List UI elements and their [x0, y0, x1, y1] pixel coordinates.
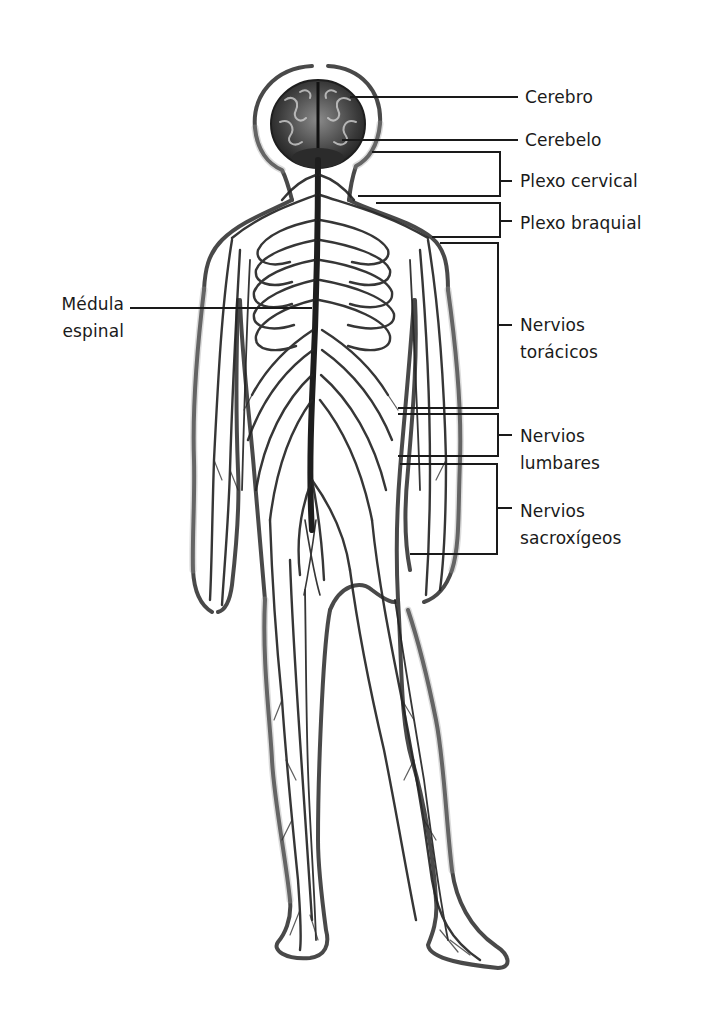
nervous-system-diagram: Cerebro Cerebelo Plexo cervical Plexo br…: [0, 0, 718, 1030]
label-medula-espinal: Médula espinal: [30, 291, 124, 345]
label-nervios-lumbares-line1: Nervios: [520, 423, 600, 450]
label-medula-espinal-line2: espinal: [30, 318, 124, 345]
label-cerebro-text: Cerebro: [525, 84, 593, 111]
label-plexo-braquial: Plexo braquial: [520, 210, 642, 237]
brain-illustration: [271, 80, 365, 168]
label-cerebro: Cerebro: [525, 84, 593, 111]
label-cerebelo: Cerebelo: [525, 127, 602, 154]
label-plexo-braquial-text: Plexo braquial: [520, 210, 642, 237]
label-nervios-toracicos-line2: torácicos: [520, 339, 598, 366]
label-nervios-sacroxigeos: Nervios sacroxígeos: [520, 498, 622, 552]
label-nervios-lumbares-line2: lumbares: [520, 450, 600, 477]
spinal-cord: [311, 160, 319, 530]
label-medula-espinal-line1: Médula: [30, 291, 124, 318]
label-nervios-sacroxigeos-line1: Nervios: [520, 498, 622, 525]
label-nervios-toracicos: Nervios torácicos: [520, 312, 598, 366]
label-nervios-sacroxigeos-line2: sacroxígeos: [520, 525, 622, 552]
label-plexo-cervical-text: Plexo cervical: [520, 168, 638, 195]
label-nervios-lumbares: Nervios lumbares: [520, 423, 600, 477]
label-plexo-cervical: Plexo cervical: [520, 168, 638, 195]
nerve-network: [210, 175, 480, 960]
label-cerebelo-text: Cerebelo: [525, 127, 602, 154]
label-nervios-toracicos-line1: Nervios: [520, 312, 598, 339]
